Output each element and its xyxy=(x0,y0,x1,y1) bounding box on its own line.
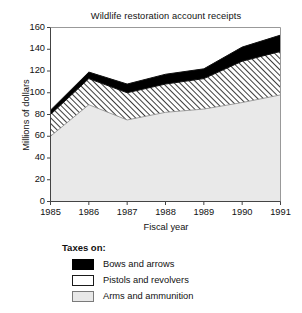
x-tick-label: 1986 xyxy=(69,208,109,217)
x-tick-label: 1989 xyxy=(184,208,224,217)
y-tick-label: 60 xyxy=(17,131,45,140)
y-tick-label: 140 xyxy=(17,44,45,53)
legend-swatch-diagonal-hatch-icon xyxy=(72,275,94,286)
x-tick-label: 1990 xyxy=(222,208,262,217)
chart-page: Wildlife restoration account receipts Mi… xyxy=(0,0,302,313)
y-tick-label: 80 xyxy=(17,110,45,119)
legend-item-bows-and-arrows: Bows and arrows xyxy=(62,256,292,272)
y-tick-label: 0 xyxy=(17,197,45,206)
y-tick-marks xyxy=(47,28,51,202)
y-tick-label: 20 xyxy=(17,175,45,184)
legend-heading: Taxes on: xyxy=(62,242,292,253)
x-tick-label: 1988 xyxy=(146,208,186,217)
legend-label: Arms and ammunition xyxy=(103,291,193,301)
x-tick-label: 1985 xyxy=(31,208,71,217)
y-tick-label: 160 xyxy=(17,23,45,32)
legend-label: Pistols and revolvers xyxy=(103,275,189,285)
legend-swatch-solid-black-icon xyxy=(72,259,94,270)
chart-legend: Taxes on: Bows and arrows Pistols and re… xyxy=(62,242,292,304)
legend-item-pistols-and-revolvers: Pistols and revolvers xyxy=(62,272,292,288)
legend-label: Bows and arrows xyxy=(103,259,174,269)
x-tick-label: 1987 xyxy=(107,208,147,217)
y-tick-label: 120 xyxy=(17,66,45,75)
plot-area xyxy=(0,0,302,240)
legend-swatch-light-gray-icon xyxy=(72,291,94,302)
x-tick-label: 1991 xyxy=(261,208,301,217)
stacked-area-chart: Wildlife restoration account receipts Mi… xyxy=(0,0,302,240)
x-tick-marks xyxy=(51,202,281,206)
y-tick-label: 100 xyxy=(17,88,45,97)
series-layer xyxy=(51,35,281,201)
legend-item-arms-and-ammunition: Arms and ammunition xyxy=(62,288,292,304)
y-tick-label: 40 xyxy=(17,153,45,162)
